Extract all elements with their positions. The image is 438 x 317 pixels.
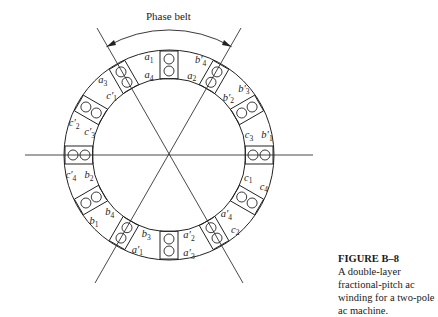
coil-label: b4: [105, 206, 114, 220]
coil-label: b′3: [238, 83, 250, 97]
coil-label: c′1: [106, 90, 117, 104]
conductor-icon: [91, 108, 101, 118]
coil-label: c3: [245, 129, 254, 143]
coil-label: b′2: [223, 92, 235, 106]
figure-caption: FIGURE B–8 A double-layer fractional-pit…: [338, 252, 438, 317]
coil-label: a1: [145, 51, 154, 65]
coil-label: b1: [90, 215, 99, 229]
coil-label: c2: [231, 224, 240, 238]
conductor-icon: [212, 67, 222, 77]
conductor-icon: [164, 54, 174, 64]
conductor-icon: [81, 198, 91, 208]
conductor-icon: [237, 108, 247, 118]
conductor-icon: [247, 102, 257, 112]
coil-label: b2: [85, 169, 94, 183]
conductor-icon: [164, 66, 174, 76]
coil-label: a′2: [183, 229, 195, 243]
conductor-icon: [122, 77, 132, 87]
stator-slots: a1a4b′4a2b′3b′2b′1c3c4c1c2a′4a′3a′2a′1b3…: [65, 51, 273, 261]
coil-label: c4: [260, 181, 269, 195]
coil-label: c′3: [84, 126, 95, 140]
conductor-icon: [206, 77, 216, 87]
conductor-icon: [91, 192, 101, 202]
arrow-left-icon: [107, 40, 117, 47]
conductor-icon: [116, 67, 126, 77]
conductor-icon: [164, 234, 174, 244]
conductor-icon: [237, 192, 247, 202]
phase-belt-arc: [107, 30, 232, 47]
coil-label: b3: [142, 228, 151, 242]
coil-label: a4: [145, 69, 154, 83]
caption-line-1: A double-layer fractional-pitch ac: [338, 265, 438, 291]
coil-label: a′4: [221, 208, 233, 222]
coil-label: a3: [98, 74, 107, 88]
coil-label: c1: [244, 172, 253, 186]
conductor-icon: [247, 198, 257, 208]
coil-label: c′2: [69, 117, 80, 131]
caption-line-2: winding for a two-pole ac machine.: [338, 291, 438, 317]
conductor-icon: [164, 246, 174, 256]
arrow-right-icon: [222, 40, 232, 47]
phase-belt-label: Phase belt: [146, 10, 191, 22]
caption-title: FIGURE B–8: [338, 252, 438, 265]
conductor-icon: [81, 102, 91, 112]
